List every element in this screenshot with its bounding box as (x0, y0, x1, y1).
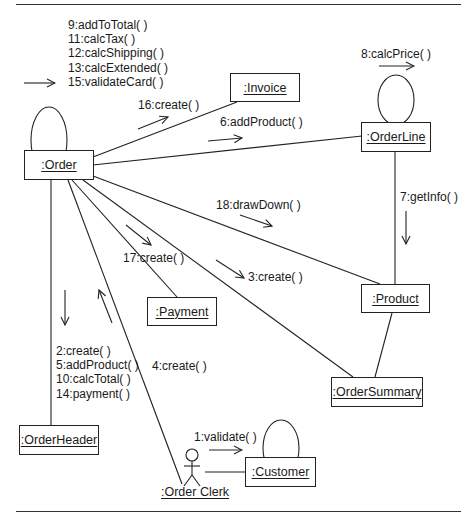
message-16-create: 16:create( ) (138, 98, 199, 112)
object-product[interactable]: :Product (361, 284, 430, 313)
link-order-payment (72, 180, 177, 297)
object-order[interactable]: :Order (24, 150, 94, 180)
message-4-create: 4:create( ) (152, 359, 207, 373)
arrow-3-create (216, 260, 244, 278)
arrow-18-drawdown (240, 215, 272, 226)
object-invoice[interactable]: :Invoice (230, 73, 300, 102)
message-label: 9:addToTotal( ) (68, 18, 168, 32)
message-8-calcprice: 8:calcPrice( ) (361, 47, 431, 61)
link-order-orderline (93, 136, 362, 165)
object-orderheader-label: :OrderHeader (21, 433, 97, 447)
link-product-ordersummary (375, 313, 392, 377)
message-label: 5:addProduct( ) (56, 358, 139, 372)
object-ordersummary[interactable]: :OrderSummary (331, 377, 423, 407)
arrow-17-create (126, 225, 151, 245)
message-label: 2:create( ) (56, 344, 139, 358)
object-orderline-label: :OrderLine (366, 130, 425, 144)
object-customer[interactable]: :Customer (245, 457, 316, 487)
message-17-create: 17:create( ) (123, 251, 184, 265)
orderline-self-loop (378, 75, 414, 125)
message-1-validate: 1:validate( ) (194, 430, 257, 444)
order-self-messages: 9:addToTotal( ) 11:calcTax( ) 12:calcShi… (68, 18, 168, 89)
message-6-addproduct: 6:addProduct( ) (220, 115, 303, 129)
object-orderheader[interactable]: :OrderHeader (19, 425, 99, 455)
object-product-label: :Product (372, 292, 419, 306)
arrow-6-addproduct (208, 138, 242, 141)
object-order-label: :Order (41, 158, 76, 172)
object-customer-label: :Customer (252, 465, 310, 479)
message-label: 10:calcTotal( ) (56, 372, 139, 386)
actor-icon (184, 449, 200, 486)
message-label: 11:calcTax( ) (68, 32, 168, 46)
link-order-product (93, 176, 380, 284)
object-ordersummary-label: :OrderSummary (333, 385, 422, 399)
object-orderline[interactable]: :OrderLine (361, 122, 431, 152)
orderheader-messages: 2:create( ) 5:addProduct( ) 10:calcTotal… (56, 344, 139, 401)
arrow-16-create (138, 117, 168, 129)
arrow-4-create (99, 290, 112, 323)
object-payment[interactable]: :Payment (147, 297, 217, 326)
message-18-drawdown: 18:drawDown( ) (216, 198, 301, 212)
object-payment-label: :Payment (156, 305, 209, 319)
message-label: 14:payment( ) (56, 387, 139, 401)
message-7-getinfo: 7:getInfo( ) (400, 190, 458, 204)
message-label: 13:calcExtended( ) (68, 61, 168, 75)
message-label: 12:calcShipping( ) (68, 46, 168, 60)
actor-orderclerk-label: :Order Clerk (161, 485, 229, 499)
object-invoice-label: :Invoice (243, 81, 286, 95)
message-label: 15:validateCard( ) (68, 75, 168, 89)
message-3-create: 3:create( ) (248, 270, 303, 284)
